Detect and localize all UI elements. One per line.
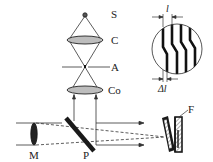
aperture xyxy=(62,65,110,68)
optical-diagram: S C A Co M P F l xyxy=(0,0,213,162)
source-cone-lines xyxy=(70,16,100,87)
label-lens-m: M xyxy=(29,149,39,161)
label-condenser: C xyxy=(111,34,118,46)
beam-splitter-plate xyxy=(66,118,94,151)
label-collimator: Co xyxy=(108,84,121,96)
collimator-lens xyxy=(67,86,103,94)
label-source: S xyxy=(111,8,117,20)
label-fringe-spacing: l xyxy=(166,3,169,14)
label-plate: P xyxy=(83,149,89,161)
label-aperture: A xyxy=(111,61,119,73)
condenser-lens xyxy=(67,36,103,44)
label-sample: F xyxy=(188,103,194,115)
label-fringe-shift: Δl xyxy=(157,83,167,94)
fringe-inset: l Δl xyxy=(152,3,202,94)
lens-m xyxy=(31,123,37,145)
wedge-sample xyxy=(162,110,188,152)
dashed-beams xyxy=(36,123,165,145)
